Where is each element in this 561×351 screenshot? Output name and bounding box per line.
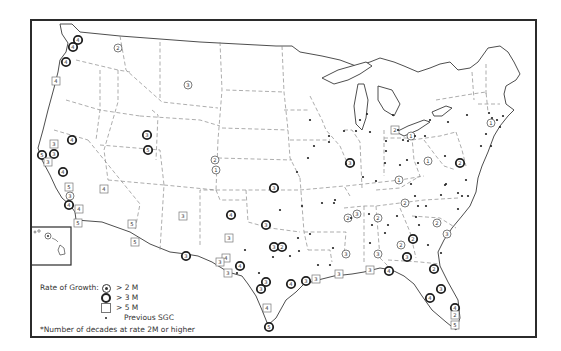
previous-sgc-dot [417,162,419,164]
previous-sgc-dot [279,209,281,211]
growth-2m-marker: 1 [424,157,432,165]
growth-2m-marker: 1 [395,176,403,184]
svg-text:2: 2 [116,45,119,51]
legend-label-3m: > 3 M [116,293,138,303]
growth-3m-marker: 4 [68,136,76,144]
previous-sgc-dot [328,135,330,137]
previous-sgc-dot [457,192,459,194]
growth-2m-marker: 2 [374,214,382,222]
growth-5m-marker: 4 [75,205,83,213]
svg-text:3: 3 [355,211,358,217]
previous-sgc-dot [440,194,442,196]
growth-3m-marker: 4 [227,211,235,219]
growth-3m-marker: 4 [62,58,70,66]
svg-text:3: 3 [439,286,442,292]
svg-text:2: 2 [376,215,379,221]
previous-sgc-dot [496,119,498,121]
previous-sgc-dot [427,244,429,246]
svg-text:5: 5 [133,239,136,245]
previous-sgc-dot [258,272,260,274]
previous-sgc-dot [402,139,404,141]
previous-sgc-dot [406,159,408,161]
growth-5m-marker: 4 [100,185,108,193]
legend-title: Rate of Growth: [40,283,100,293]
svg-text:2: 2 [280,244,283,250]
growth-3m-marker: 2 [430,265,438,273]
lake-superior [322,62,372,84]
previous-sgc-dot [465,179,467,181]
hawaii-islands [34,230,65,255]
legend-label-5m: > 5 M [116,303,138,313]
previous-sgc-dot [385,140,387,142]
previous-sgc-dot [385,150,387,152]
previous-sgc-dot [289,255,291,257]
previous-sgc-dot [375,180,377,182]
previous-sgc-dot [332,247,334,249]
legend-row-sgc: Previous SGC [40,313,195,323]
growth-5m-marker: 3 [224,269,232,277]
growth-3m-marker: 5 [265,323,273,331]
growth-3m-marker: 3 [346,159,354,167]
previous-sgc-dot [328,141,330,143]
svg-text:3: 3 [272,244,275,250]
previous-sgc-dot [321,202,323,204]
previous-sgc-dot [407,140,409,142]
previous-sgc-dot [355,130,357,132]
growth-3m-marker: 3 [182,252,190,260]
previous-sgc-dot [301,205,303,207]
svg-text:3: 3 [52,151,55,157]
growth-2m-marker: 2 [433,219,441,227]
svg-text:3: 3 [264,279,267,285]
svg-text:1: 1 [397,177,400,183]
legend-footnote: *Number of decades at rate 2M or higher [40,325,195,335]
previous-sgc-dot [317,264,319,266]
growth-3m-marker: 2 [456,159,464,167]
growth-5m-marker: 3 [366,266,374,274]
previous-sgc-dot [480,145,482,147]
growth-2m-marker: 3 [353,210,361,218]
growth-5m-marker: 5 [128,220,136,228]
growth-3m-marker: 4 [385,267,393,275]
previous-sgc-dot [444,155,446,157]
growth-5m-marker: 5 [451,321,459,329]
growth-3m-marker: 3 [437,285,445,293]
growth-2m-marker: 3 [66,192,74,200]
previous-sgc-dot [410,183,412,185]
growth-3m-marker: 2 [409,235,417,243]
svg-text:3: 3 [52,141,55,147]
previous-sgc-dot [369,242,371,244]
lake-ontario [432,106,452,116]
growth-5m-marker: 3 [50,140,58,148]
previous-sgc-dot [461,195,463,197]
growth-3m-marker: 3 [403,253,411,261]
svg-text:3: 3 [68,193,71,199]
svg-text:5: 5 [67,184,70,190]
svg-text:3: 3 [227,235,230,241]
previous-sgc-dot [447,121,449,123]
growth-2m-marker: 1 [407,132,415,140]
previous-sgc-dot [414,195,416,197]
growth-3m-marker: 5 [144,146,152,154]
square-icon [101,303,111,313]
growth-5m-marker: 5 [74,219,82,227]
previous-sgc-dot [417,205,419,207]
previous-sgc-dot [359,119,361,121]
svg-text:1: 1 [426,158,429,164]
previous-sgc-dot [424,135,426,137]
svg-text:3: 3 [348,160,351,166]
previous-sgc-dot [491,117,493,119]
svg-text:3: 3 [344,251,347,257]
growth-3m-marker: 3 [270,184,278,192]
growth-2m-marker: 2 [114,44,122,52]
map-legend: Rate of Growth: > 2 M > 3 M > 5 M Previo… [40,283,195,335]
previous-sgc-dot [371,224,373,226]
svg-text:3: 3 [46,159,49,165]
growth-2m-marker: 3 [374,250,382,258]
circle-dot-icon [102,284,111,293]
svg-text:3: 3 [337,271,340,277]
svg-text:3: 3 [218,259,221,265]
svg-text:2: 2 [411,236,414,242]
svg-text:1: 1 [214,167,217,173]
growth-5m-marker: 2 [451,311,459,319]
growth-5m-marker: 5 [131,238,139,246]
